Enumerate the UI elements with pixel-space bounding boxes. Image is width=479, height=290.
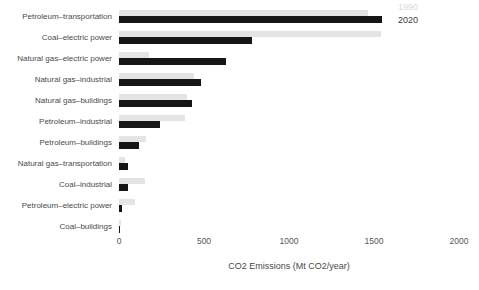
bar-2020-series	[119, 142, 139, 149]
bar-2020-series	[119, 163, 128, 170]
category-label: Natural gas–electric power	[0, 52, 112, 66]
category-label: Coal–electric power	[0, 31, 112, 45]
x-tick-label: 2000	[450, 236, 469, 246]
category-label: Coal–industrial	[0, 178, 112, 192]
category-label: Coal–buildings	[0, 220, 112, 234]
x-tick-label: 0	[117, 236, 122, 246]
bar-2020-series	[119, 205, 122, 212]
bar-2020-series	[119, 79, 201, 86]
category-label: Petroleum–buildings	[0, 136, 112, 150]
bar-2020-series	[119, 100, 192, 107]
x-axis-title: CO2 Emissions (Mt CO2/year)	[119, 261, 459, 271]
bar-2020-series	[119, 184, 128, 191]
x-tick-label: 1000	[280, 236, 299, 246]
bar-2020-series	[119, 16, 382, 23]
bar-2020-series	[119, 58, 226, 65]
legend-item-2020: 2020	[398, 14, 418, 27]
legend-item-1990: 1990	[398, 1, 418, 14]
category-label: Natural gas–buildings	[0, 94, 112, 108]
x-tick-label: 1500	[365, 236, 384, 246]
category-label: Petroleum–transportation	[0, 10, 112, 24]
category-label: Petroleum–industrial	[0, 115, 112, 129]
bar-2020-series	[119, 37, 252, 44]
legend: 19902020	[398, 1, 418, 27]
bar-2020-series	[119, 121, 160, 128]
x-tick-label: 500	[197, 236, 211, 246]
category-label: Natural gas–transportation	[0, 157, 112, 171]
bar-chart: Petroleum–transportationCoal–electric po…	[0, 0, 479, 290]
category-label: Natural gas–industrial	[0, 73, 112, 87]
bar-2020-series	[119, 226, 120, 233]
category-label: Petroleum–electric power	[0, 199, 112, 213]
